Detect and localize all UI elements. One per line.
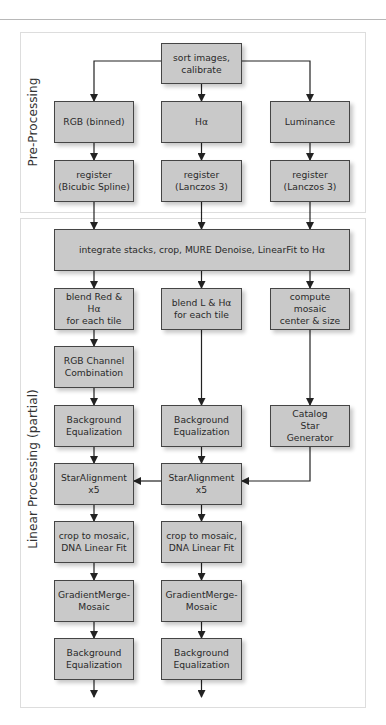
edge-sort-to-rgb	[94, 61, 161, 101]
node-compute-mosaic: compute mosaic center & size	[270, 288, 350, 330]
node-background-equalization-1: Background Equalization	[54, 405, 134, 447]
node-crop-dna-2: crop to mosaic, DNA Linear Fit	[161, 521, 242, 563]
node-star-alignment-1: StarAlignment x5	[54, 463, 134, 505]
node-background-equalization-2: Background Equalization	[161, 405, 242, 447]
node-gradient-merge-mosaic-1: GradientMerge- Mosaic	[54, 580, 134, 622]
node-gradient-merge-mosaic-2: GradientMerge- Mosaic	[161, 580, 242, 622]
node-sort-calibrate: sort images, calibrate	[161, 43, 242, 84]
node-integrate-stacks: integrate stacks, crop, MURE Denoise, Li…	[54, 229, 350, 271]
node-register-lanczos-lum: register (Lanczos 3)	[270, 160, 350, 202]
node-background-equalization-4: Background Equalization	[161, 638, 242, 680]
node-blend-l-ha: blend L & Hα for each tile	[161, 288, 242, 330]
edge-sort-to-lum	[242, 61, 310, 101]
edge-catalog-to-star-align-2	[242, 447, 310, 481]
node-catalog-star-generator: Catalog Star Generator	[270, 405, 350, 447]
node-rgb-binned: RGB (binned)	[54, 101, 134, 143]
node-rgb-channel-combination: RGB Channel Combination	[54, 346, 134, 388]
node-star-alignment-2: StarAlignment x5	[161, 463, 242, 505]
node-blend-red-ha: blend Red & Hα for each tile	[54, 288, 134, 330]
node-register-bicubic: register (Bicubic Spline)	[54, 160, 134, 202]
node-h-alpha: Hα	[161, 101, 242, 143]
node-luminance: Luminance	[270, 101, 350, 143]
node-background-equalization-3: Background Equalization	[54, 638, 134, 680]
node-crop-dna-1: crop to mosaic, DNA Linear Fit	[54, 521, 134, 563]
node-register-lanczos-ha: register (Lanczos 3)	[161, 160, 242, 202]
